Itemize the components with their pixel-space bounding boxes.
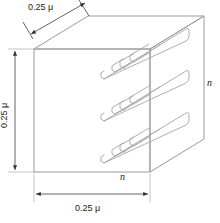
width-dimension-label: 0.25 μ — [75, 204, 100, 213]
height-dimension-label: 0.25 μ — [0, 103, 9, 128]
serpentine-bar-2b — [112, 87, 160, 114]
serpentine-link-3b — [124, 146, 133, 152]
cube-body — [34, 16, 204, 172]
serpentine-row-3 — [101, 112, 189, 163]
serpentine-link-3e — [115, 143, 123, 148]
serpentine-link-2d — [134, 95, 149, 104]
serpentine-link-1b — [124, 62, 133, 68]
serpentine-link-2b — [124, 104, 133, 110]
depth-dimension-label: 0.25 μ — [28, 3, 53, 12]
serpentine-link-1d — [134, 53, 149, 62]
serpentine-link-3c — [134, 128, 149, 137]
serpentine-link-3d — [134, 137, 149, 146]
height-dimension — [8, 49, 36, 172]
serpentine-link-2c — [134, 86, 149, 95]
serpentine-link-2e — [115, 101, 123, 106]
serpentine-row-1 — [101, 28, 189, 79]
serpentine-bar-3b — [112, 129, 160, 156]
serpentine-link-3a — [124, 138, 133, 143]
width-dimension — [34, 174, 150, 202]
serpentine-link-2f — [115, 110, 123, 114]
depth-ext-line-2 — [79, 0, 89, 16]
cube-front-face — [34, 49, 150, 172]
serpentine-link-2a — [124, 96, 133, 101]
cube-unit-cell-figure: 0.25 μ 0.25 μ 0.25 μ n n — [0, 0, 220, 223]
depth-ext-line-1 — [23, 22, 33, 39]
cube-right-face — [150, 16, 204, 172]
serpentine-row-2 — [101, 70, 189, 121]
cube-diagram-svg — [0, 0, 220, 223]
n-label-right: n — [207, 78, 212, 88]
n-label-bottom: n — [120, 172, 125, 182]
serpentine-link-1e — [115, 59, 123, 64]
serpentine-link-3f — [115, 152, 123, 156]
serpentine-link-1a — [124, 54, 133, 59]
serpentine-link-1f — [115, 68, 123, 72]
